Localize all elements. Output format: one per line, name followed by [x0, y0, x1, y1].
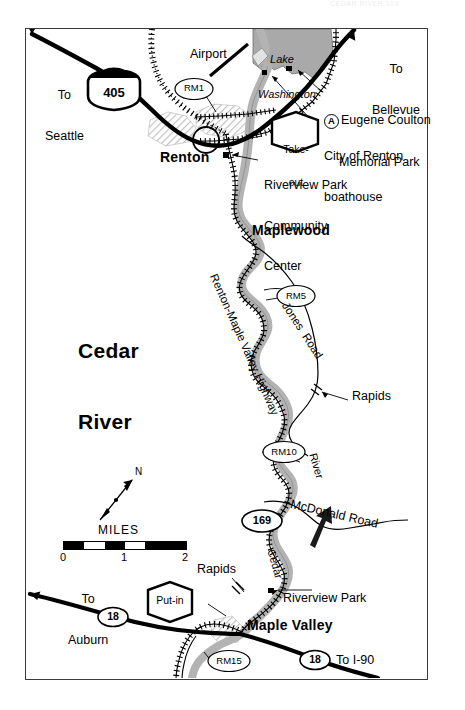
label-maple-valley: Maple Valley — [247, 618, 333, 633]
page-header-text: CEDAR RIVER 103 — [330, 0, 448, 7]
riverview-cc-line3: Center — [264, 260, 347, 274]
north-label: N — [135, 467, 142, 478]
to-bellevue-line1: To — [372, 63, 420, 77]
rm-marker-rm5: RM5 — [277, 291, 315, 301]
label-riverview-park-south: Riverview Park — [283, 592, 366, 606]
scale-tick-1: 1 — [121, 552, 127, 564]
to-auburn-line2: Auburn — [68, 634, 108, 648]
rm-marker-rm15: RM15 — [209, 656, 249, 666]
rm-marker-rm10: RM10 — [265, 447, 303, 457]
riverview-cc-line1: Riverview Park — [264, 179, 347, 193]
putin-label: Put-in — [150, 595, 190, 606]
label-rapids-low: Rapids — [197, 563, 236, 577]
lake-washington-line2: Washington — [258, 89, 306, 101]
scale-tick-2: 2 — [182, 552, 188, 564]
map-page: CEDAR RIVER 103 — [0, 0, 465, 710]
label-to-i90: To I-90 — [336, 654, 374, 668]
to-auburn-line1: To — [68, 593, 108, 607]
map-title: Cedar River — [78, 292, 139, 480]
rm-marker-rm1: RM1 — [175, 83, 213, 93]
shield-label-i405: 405 — [94, 86, 134, 100]
map-title-line2: River — [78, 410, 139, 434]
shield-label-sr169: 169 — [242, 515, 282, 527]
shield-label-sr18-east: 18 — [300, 654, 330, 665]
label-airport: Airport — [190, 48, 227, 62]
label-rapids-mid: Rapids — [352, 390, 391, 404]
lake-washington-line1: Lake — [258, 54, 306, 66]
map-title-line1: Cedar — [78, 339, 139, 363]
label-to-seattle: To Seattle — [45, 62, 84, 170]
label-lake-washington: Lake Washington — [258, 30, 306, 125]
scale-bar-icon — [63, 541, 187, 550]
page-header-faint: CEDAR RIVER 103 — [330, 0, 448, 7]
label-maplewood: Maplewood — [252, 223, 330, 238]
label-renton: Renton — [160, 150, 209, 165]
shield-label-sr18-west: 18 — [98, 611, 128, 622]
to-seattle-line2: Seattle — [45, 130, 84, 144]
scale-tick-0: 0 — [60, 552, 66, 564]
to-seattle-line1: To — [45, 89, 84, 103]
scale-unit-label: MILES — [98, 524, 139, 537]
